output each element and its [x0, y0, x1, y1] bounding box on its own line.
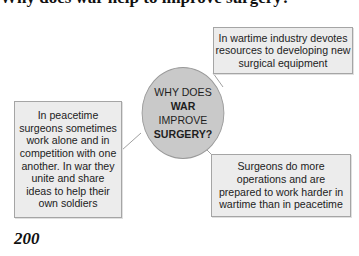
- center-line-3: IMPROVE: [159, 113, 208, 127]
- reason-box-industry: In wartime industry devotes resources to…: [213, 27, 353, 74]
- reason-text: In wartime industry devotes resources to…: [214, 32, 352, 70]
- center-line-1: WHY DOES: [154, 85, 211, 99]
- reason-text: In peacetime surgeons sometimes work alo…: [15, 109, 121, 210]
- reason-text: Surgeons do more operations and are prep…: [212, 160, 350, 210]
- center-line-2: WAR: [171, 99, 196, 113]
- page-number: 200: [14, 229, 40, 249]
- central-question-circle: WHY DOES WAR IMPROVE SURGERY?: [142, 67, 225, 159]
- center-line-4: SURGERY?: [154, 127, 212, 141]
- connector-left: [122, 133, 141, 150]
- reason-box-cooperation: In peacetime surgeons sometimes work alo…: [14, 101, 122, 218]
- reason-box-workload: Surgeons do more operations and are prep…: [211, 154, 351, 217]
